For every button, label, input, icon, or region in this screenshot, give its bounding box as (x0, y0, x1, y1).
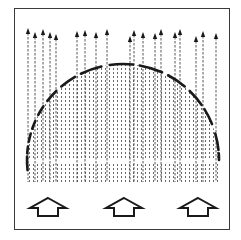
dome-edge-segment (27, 157, 28, 170)
arrowhead-icon (48, 32, 52, 38)
arrow-center-icon (106, 198, 142, 216)
band-stipple (26, 164, 220, 182)
arrow-right-icon (180, 198, 216, 216)
hollow-up-arrows (30, 198, 216, 216)
arrowhead-icon (159, 29, 163, 35)
arrowhead-icon (54, 34, 58, 40)
dome-edge-segment (27, 147, 28, 154)
field-diagram (0, 0, 241, 240)
arrowhead-icon (214, 33, 218, 39)
arrowhead-icon (201, 31, 205, 37)
arrowhead-icon (26, 28, 30, 34)
arrowhead-icon (178, 29, 182, 35)
arrow-left-icon (30, 198, 66, 216)
arrowhead-icon (153, 33, 157, 39)
arrowhead-icon (128, 36, 132, 42)
arrowhead-icon (173, 32, 177, 38)
arrowhead-icon (141, 32, 145, 38)
arrowhead-icon (105, 29, 109, 35)
arrowhead-icon (94, 32, 98, 38)
arrowhead-icon (132, 30, 136, 36)
dome-edge-segment (110, 64, 133, 65)
arrowhead-icon (33, 32, 37, 38)
arrowhead-icon (83, 30, 87, 36)
stippled-base-band (26, 164, 220, 182)
arrowhead-icon (75, 31, 79, 37)
arrowhead-icon (41, 29, 45, 35)
arrowhead-icon (194, 36, 198, 42)
